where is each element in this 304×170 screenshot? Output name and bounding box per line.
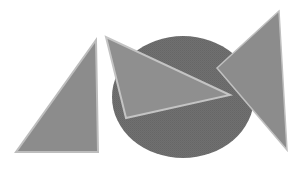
geometric-composition <box>0 0 304 170</box>
left-triangle-shape <box>16 40 98 152</box>
